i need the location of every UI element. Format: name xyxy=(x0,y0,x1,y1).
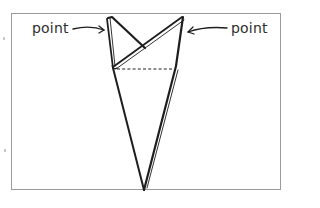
right-point-flap xyxy=(112,17,184,69)
left-arrow-icon xyxy=(73,26,104,33)
right-arrow-icon xyxy=(188,27,227,34)
right-point-label: point xyxy=(231,21,268,35)
left-point-label: point xyxy=(32,21,69,35)
cone-body xyxy=(113,66,178,190)
left-point-flap xyxy=(107,17,145,68)
